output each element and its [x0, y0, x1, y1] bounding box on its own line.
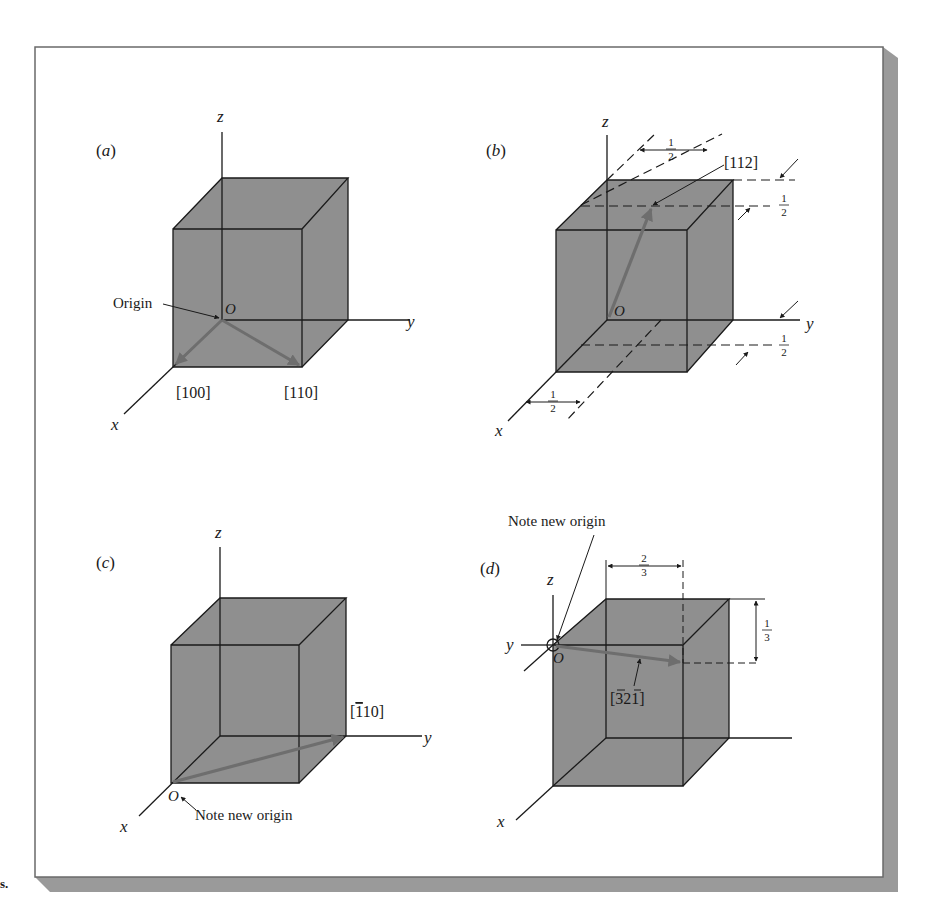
- axis-label-y: y: [804, 314, 814, 333]
- axis-label-z: z: [216, 107, 224, 126]
- vector-label-100: [100]: [176, 384, 211, 401]
- vector-label-bar1-1-0: [110]: [350, 703, 384, 720]
- panel-label: (a): [96, 141, 116, 160]
- svg-text:2: 2: [550, 402, 556, 414]
- svg-text:2: 2: [781, 206, 787, 218]
- svg-text:1: 1: [550, 388, 556, 400]
- vector-label-bar3-2-bar1: [321]: [610, 690, 645, 707]
- frame-shadow-right: [883, 47, 898, 892]
- origin-label: O: [225, 301, 236, 317]
- svg-text:2: 2: [641, 552, 647, 564]
- cube-front-face: [556, 230, 687, 372]
- axis-label-z: z: [214, 523, 222, 542]
- axis-label-z: z: [546, 570, 554, 589]
- frame-border: [35, 47, 883, 877]
- panel-label: (c): [96, 553, 115, 572]
- cube-front-face: [171, 645, 299, 783]
- svg-text:2: 2: [781, 346, 787, 358]
- axis-label-x: x: [110, 415, 119, 434]
- crystal-direction-figure: s. (a) z y x O Origin [100] [110]: [0, 0, 933, 923]
- panel-label: (b): [486, 141, 506, 160]
- axis-label-z: z: [601, 112, 609, 131]
- origin-callout-text: Note new origin: [195, 807, 293, 823]
- origin-label: O: [553, 650, 564, 666]
- origin-callout-text: Note new origin: [508, 513, 606, 529]
- axis-label-y: y: [405, 312, 415, 331]
- svg-text:3: 3: [641, 566, 647, 578]
- frame-shadow-bottom: [35, 877, 898, 892]
- vector-label-112: [112]: [724, 154, 758, 171]
- axis-label-x: x: [496, 812, 505, 831]
- svg-text:1: 1: [781, 192, 787, 204]
- axis-label-x: x: [494, 421, 503, 440]
- svg-text:2: 2: [668, 150, 674, 162]
- axis-label-y: y: [504, 635, 514, 654]
- axis-label-x: x: [119, 817, 128, 836]
- origin-label: O: [168, 788, 179, 804]
- axis-label-y: y: [422, 728, 432, 747]
- vector-label-110: [110]: [284, 384, 318, 401]
- cube-front-face: [553, 645, 683, 786]
- svg-text:1: 1: [764, 617, 770, 629]
- svg-text:1: 1: [668, 136, 674, 148]
- origin-label: O: [614, 303, 625, 319]
- panel-label: (d): [480, 559, 500, 578]
- figure-frame: [35, 47, 898, 892]
- svg-text:1: 1: [781, 332, 787, 344]
- svg-text:3: 3: [764, 631, 770, 643]
- stray-mark: s.: [0, 876, 8, 891]
- origin-callout-text: Origin: [113, 295, 153, 311]
